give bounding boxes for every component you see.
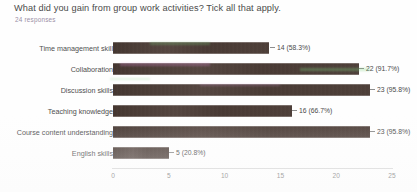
value-tick (370, 131, 375, 132)
bar[interactable] (113, 126, 370, 137)
value-label: 22 (91.7%) (366, 65, 399, 72)
bar-texture (113, 126, 370, 137)
value-label: 23 (95.8%) (377, 86, 410, 93)
chart-row: Course content understanding 23 (95.8%) (0, 122, 417, 141)
x-tick-label: 10 (221, 172, 228, 179)
value-tick (270, 47, 275, 48)
category-label: Collaboration (71, 64, 113, 73)
bar-track: 23 (95.8%) (113, 126, 392, 137)
value-label: 16 (66.7%) (299, 107, 332, 114)
x-tick-label: 20 (333, 172, 340, 179)
bar[interactable] (113, 84, 370, 95)
chart-row: Teaching knowledge 16 (66.7%) (0, 101, 417, 120)
category-label: Discussion skills (61, 85, 113, 94)
value-tick (370, 89, 375, 90)
x-tick-label: 0 (111, 172, 115, 179)
chart-plot-area: Time management skill 14 (58.3%) Collabo… (0, 38, 417, 166)
bar[interactable] (113, 147, 169, 158)
x-tick-label: 25 (388, 172, 395, 179)
value-label: 23 (95.8%) (377, 128, 410, 135)
x-axis: 0 5 10 15 20 25 (113, 168, 392, 188)
bar-track: 5 (20.8%) (113, 147, 392, 158)
bar-track: 22 (91.7%) (113, 63, 392, 74)
chart-row: Time management skill 14 (58.3%) (0, 38, 417, 57)
bar-texture (113, 147, 169, 158)
value-label: 14 (58.3%) (277, 44, 310, 51)
page-title: What did you gain from group work activi… (14, 3, 281, 13)
bar-track: 16 (66.7%) (113, 105, 392, 116)
bar-track: 23 (95.8%) (113, 84, 392, 95)
category-label: Course content understanding (17, 127, 113, 136)
survey-result-chart-card: What did you gain from group work activi… (0, 0, 417, 192)
bar[interactable] (113, 42, 269, 53)
bar[interactable] (113, 63, 359, 74)
chart-row: English skills 5 (20.8%) (0, 143, 417, 162)
bar-texture (113, 105, 292, 116)
value-tick (169, 152, 174, 153)
bar[interactable] (113, 105, 292, 116)
chart-row: Discussion skills 23 (95.8%) (0, 80, 417, 99)
bar-texture (113, 63, 359, 74)
bar-texture (113, 42, 269, 53)
x-tick-label: 15 (277, 172, 284, 179)
bar-texture (113, 84, 370, 95)
value-tick (292, 110, 297, 111)
x-axis-line (112, 168, 393, 169)
x-tick-label: 5 (167, 172, 171, 179)
category-label: Teaching knowledge (48, 106, 113, 115)
category-label: Time management skill (39, 43, 113, 52)
value-label: 5 (20.8%) (176, 149, 205, 156)
category-label: English skills (72, 148, 113, 157)
value-tick (359, 68, 364, 69)
bar-track: 14 (58.3%) (113, 42, 392, 53)
chart-row: Collaboration 22 (91.7%) (0, 59, 417, 78)
response-count-label: 24 responses (15, 16, 56, 23)
